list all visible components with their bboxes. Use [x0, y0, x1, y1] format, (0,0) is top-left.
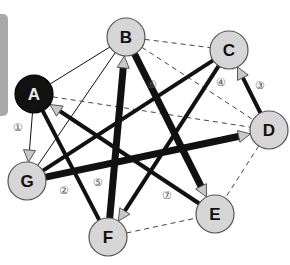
- edge-label: ③: [255, 79, 265, 91]
- edge-A-B: [50, 47, 110, 84]
- node-D: D: [250, 111, 288, 149]
- node-label: A: [28, 85, 40, 104]
- node-label: C: [223, 41, 235, 60]
- edge-label: ⑦: [162, 189, 172, 201]
- edge-label: ⑥: [147, 78, 157, 90]
- arrowhead-icon: [24, 150, 36, 162]
- edge-B-C: [145, 39, 210, 47]
- node-G: G: [8, 162, 46, 200]
- node-label: F: [103, 228, 113, 247]
- edge-D-E: [225, 146, 258, 198]
- arrowhead-icon: [117, 56, 129, 68]
- edge-A-G: [29, 113, 32, 152]
- node-B: B: [107, 18, 145, 56]
- edge-F-B: [110, 66, 124, 218]
- node-label: D: [263, 121, 275, 140]
- node-C: C: [210, 31, 248, 69]
- node-F: F: [89, 218, 127, 256]
- graph-diagram: ①②③④⑤⑥⑦ ABCDEFG: [0, 0, 290, 265]
- edge-F-E: [127, 218, 197, 233]
- edge-label: ④: [216, 76, 226, 88]
- node-label: G: [20, 172, 33, 191]
- arrowhead-icon: [237, 131, 250, 143]
- edge-label: ⑤: [93, 176, 103, 188]
- edge-G-D: [46, 136, 241, 177]
- node-E: E: [196, 195, 234, 233]
- node-A: A: [15, 75, 53, 113]
- edge-label: ②: [59, 184, 69, 196]
- node-label: B: [120, 28, 132, 47]
- node-label: E: [209, 205, 220, 224]
- edge-label: ①: [13, 121, 23, 133]
